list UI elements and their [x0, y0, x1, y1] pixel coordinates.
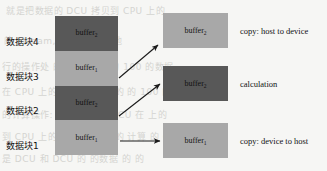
stage-box-copy-host-to-device: buffer2 — [163, 13, 228, 48]
arrow-to-copy-host-to-device — [119, 45, 158, 78]
stage-box-copy-device-to-host: buffer1 — [163, 123, 228, 158]
stage-box-calculation: buffer2 — [163, 66, 228, 101]
data-block-label-1: 数据块1 — [6, 139, 39, 152]
data-block-label-3: 数据块3 — [6, 70, 39, 83]
buffer-label: buffer2 — [75, 29, 97, 37]
buffer-label: buffer1 — [75, 64, 97, 72]
buffer-label: buffer1 — [184, 137, 206, 145]
buffer-label: buffer2 — [184, 27, 206, 35]
buffer-stack: buffer2 buffer1 buffer2 buffer1 — [55, 16, 118, 155]
stack-cell-2: buffer2 — [55, 86, 118, 121]
data-block-label-2: 数据块2 — [6, 104, 39, 117]
pipeline-diagram: 就是把数据的 DCU 拷贝到 CPU 上的 的 Stream, 的内存 的 其他… — [0, 0, 327, 171]
data-block-label-4: 数据块4 — [6, 35, 39, 48]
buffer-label: buffer2 — [75, 99, 97, 107]
stage-caption-copy-device-to-host: copy: device to host — [240, 136, 308, 146]
stack-cell-4: buffer2 — [55, 16, 118, 51]
stage-caption-copy-host-to-device: copy: host to device — [240, 26, 308, 36]
arrow-to-calculation — [119, 84, 160, 116]
stack-cell-1: buffer1 — [55, 120, 118, 155]
stage-caption-calculation: calculation — [240, 79, 277, 89]
stack-cell-3: buffer1 — [55, 51, 118, 86]
buffer-label: buffer1 — [75, 134, 97, 142]
buffer-label: buffer2 — [184, 80, 206, 88]
